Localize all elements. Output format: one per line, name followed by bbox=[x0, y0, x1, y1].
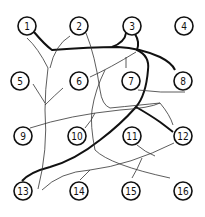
node-1: 1 bbox=[18, 17, 36, 35]
node-3: 3 bbox=[123, 17, 141, 35]
node-15: 15 bbox=[122, 182, 140, 200]
path-1-to-13 bbox=[27, 38, 48, 189]
node-9: 9 bbox=[14, 127, 32, 145]
svg-text:14: 14 bbox=[73, 186, 85, 197]
svg-text:11: 11 bbox=[126, 131, 137, 142]
svg-text:12: 12 bbox=[177, 131, 188, 142]
svg-text:9: 9 bbox=[20, 131, 26, 142]
svg-text:1: 1 bbox=[24, 21, 30, 32]
svg-text:5: 5 bbox=[17, 76, 23, 87]
diagram-canvas: 1 2 3 4 5 6 7 8 9 10 11 12 13 14 15 16 bbox=[0, 0, 205, 217]
node-5: 5 bbox=[11, 72, 29, 90]
path-11-right bbox=[137, 145, 155, 156]
node-2: 2 bbox=[70, 17, 88, 35]
svg-text:13: 13 bbox=[17, 186, 28, 197]
path-14-branch bbox=[80, 170, 90, 180]
path-10-branch bbox=[85, 113, 95, 128]
nodes: 1 2 3 4 5 6 7 8 9 10 11 12 13 14 15 16 bbox=[11, 17, 193, 200]
svg-text:15: 15 bbox=[125, 186, 136, 197]
node-12: 12 bbox=[174, 127, 192, 145]
path-2-branch bbox=[50, 36, 70, 68]
svg-text:2: 2 bbox=[76, 21, 82, 32]
svg-text:10: 10 bbox=[71, 131, 83, 142]
svg-text:4: 4 bbox=[181, 21, 187, 32]
node-14: 14 bbox=[70, 182, 88, 200]
svg-text:7: 7 bbox=[128, 76, 134, 87]
svg-text:3: 3 bbox=[129, 21, 135, 32]
node-11: 11 bbox=[123, 127, 141, 145]
node-7: 7 bbox=[122, 72, 140, 90]
path-1-to-8 bbox=[34, 32, 175, 70]
path-3-to-12 bbox=[135, 34, 173, 132]
path-9-long bbox=[30, 103, 160, 128]
node-8: 8 bbox=[174, 72, 192, 90]
node-13: 13 bbox=[14, 182, 32, 200]
path-3-branch bbox=[112, 33, 126, 47]
svg-text:16: 16 bbox=[177, 186, 189, 197]
path-12-to-13 bbox=[42, 143, 174, 190]
svg-text:8: 8 bbox=[180, 76, 186, 87]
maze-diagram: 1 2 3 4 5 6 7 8 9 10 11 12 13 14 15 16 bbox=[0, 0, 205, 217]
path-6-branch bbox=[45, 88, 63, 105]
svg-text:6: 6 bbox=[76, 76, 82, 87]
node-6: 6 bbox=[70, 72, 88, 90]
path-15-branch bbox=[132, 158, 142, 178]
node-10: 10 bbox=[68, 127, 86, 145]
path-5-branch bbox=[33, 84, 45, 103]
path-to-12-top bbox=[160, 103, 173, 125]
node-4: 4 bbox=[175, 17, 193, 35]
node-16: 16 bbox=[174, 182, 192, 200]
